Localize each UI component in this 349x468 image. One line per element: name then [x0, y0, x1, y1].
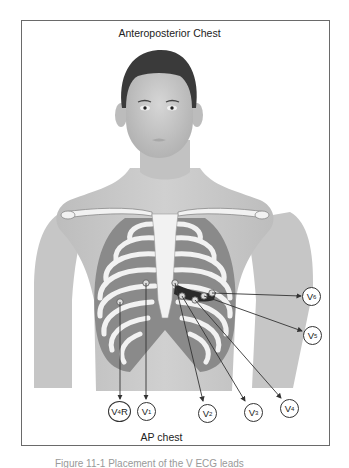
lead-label-v3: V3: [244, 403, 263, 422]
footer-label-text: AP chest: [141, 431, 183, 443]
footer-label: AP chest: [0, 431, 349, 443]
lead-label-v5: V5: [303, 326, 322, 345]
lead-label-v1: V1: [137, 402, 156, 421]
lead-label-v6: V6: [302, 287, 321, 306]
lead-label-v2: V2: [198, 404, 217, 423]
figure-caption: Figure 11-1 Placement of the V ECG leads: [55, 458, 315, 468]
lead-label-v4: V4: [280, 399, 299, 418]
lead-label-v4r: V4R: [108, 401, 131, 422]
figure-caption-text: Figure 11-1 Placement of the V ECG leads: [55, 458, 244, 468]
